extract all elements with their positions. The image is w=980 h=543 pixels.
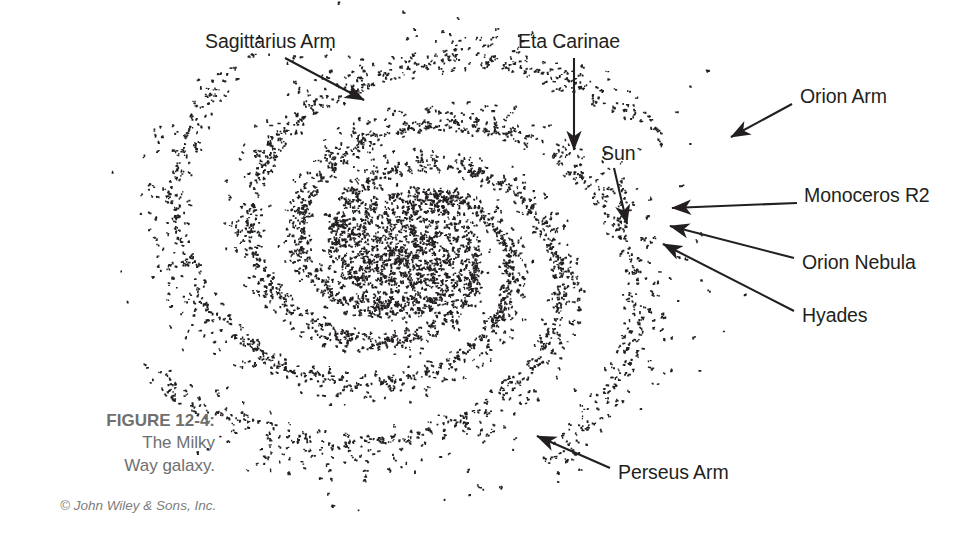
figure-caption: FIGURE 12-4: The Milky Way galaxy.	[40, 410, 215, 477]
label-sagittarius-arm: Sagittarius Arm	[205, 31, 336, 51]
label-hyades: Hyades	[802, 305, 868, 325]
arrow-orion-nebula	[670, 226, 794, 258]
arrow-orion-arm	[731, 104, 792, 137]
figure-caption-line-2: Way galaxy.	[40, 455, 215, 477]
label-monoceros-r2: Monoceros R2	[804, 185, 930, 205]
annotation-arrows	[285, 58, 797, 468]
arrow-sun	[614, 168, 627, 224]
label-orion-nebula: Orion Nebula	[802, 252, 916, 272]
figure-number: FIGURE 12-4:	[40, 410, 215, 432]
figure-canvas: Sagittarius Arm Eta Carinae Sun Orion Ar…	[0, 0, 980, 543]
label-orion-arm: Orion Arm	[800, 86, 887, 106]
label-eta-carinae: Eta Carinae	[518, 31, 620, 51]
arrow-monoceros-r2	[672, 203, 797, 208]
arrow-sagittarius-arm	[285, 58, 364, 100]
arrow-hyades	[663, 244, 794, 311]
figure-caption-line-1: The Milky	[40, 432, 215, 454]
label-sun: Sun	[601, 143, 635, 163]
label-perseus-arm: Perseus Arm	[618, 462, 729, 482]
copyright-credit: © John Wiley & Sons, Inc.	[60, 498, 360, 513]
